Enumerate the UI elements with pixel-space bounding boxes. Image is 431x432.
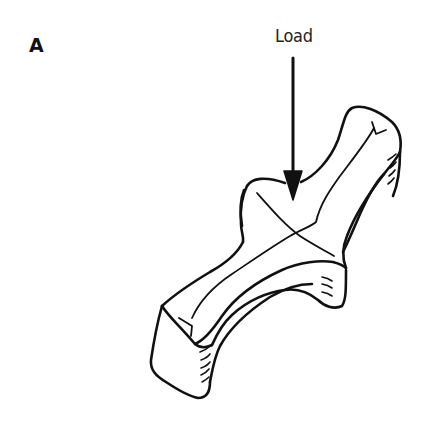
load-arrow-icon [284,58,302,200]
specimen-outline [151,107,401,398]
end-face-hatching [200,154,396,382]
specimen-drawing [0,0,431,432]
